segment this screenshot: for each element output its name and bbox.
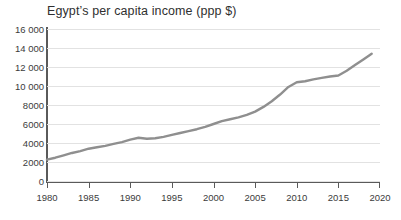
chart-title: Egyptʼs per capita income (ppp $) [47,4,237,18]
y-axis-tick-label: 4000 [0,138,44,149]
x-axis-tick-mark [214,183,215,188]
x-axis-tick-mark [89,183,90,188]
plot-area [47,29,380,181]
chart-figure: Egyptʼs per capita income (ppp $) 020004… [0,0,401,220]
y-axis-tick-label: 10 000 [0,81,44,92]
y-axis-tick-label: 12 000 [0,62,44,73]
y-axis-tick-label: 8000 [0,100,44,111]
x-axis-tick-labels: 198019851990199520002005201020152020 [47,192,380,206]
x-axis-tick-mark [379,183,380,188]
x-axis-tick-label: 1990 [120,192,141,203]
x-axis-tick-label: 2010 [286,192,307,203]
income-line-series [47,29,380,181]
x-axis-tick-label: 2000 [203,192,224,203]
x-axis-tick-mark [47,183,48,188]
y-axis-tick-labels: 0200040006000800010 00012 00014 00016 00… [0,29,44,181]
y-axis-tick-label: 14 000 [0,43,44,54]
x-axis-tick-label: 2020 [369,192,390,203]
x-axis-tick-mark [255,183,256,188]
x-axis-tick-label: 2015 [328,192,349,203]
y-axis-tick-label: 0 [0,176,44,187]
x-axis-tick-label: 2005 [245,192,266,203]
x-axis-tick-label: 1985 [78,192,99,203]
y-axis-tick-label: 16 000 [0,24,44,35]
x-axis-tick-mark [172,183,173,188]
y-axis-tick-label: 2000 [0,157,44,168]
y-axis-tick-label: 6000 [0,119,44,130]
x-axis-tick-marks [47,183,380,188]
x-axis-tick-mark [338,183,339,188]
x-axis-tick-label: 1980 [36,192,57,203]
x-axis-tick-mark [130,183,131,188]
x-axis-tick-label: 1995 [161,192,182,203]
x-axis-tick-mark [297,183,298,188]
